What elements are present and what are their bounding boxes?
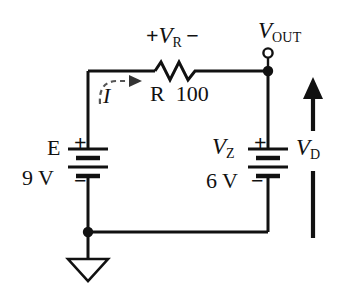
output-voltage-subscript: OUT [272,30,301,45]
zener-voltage-subscript: Z [226,146,235,161]
output-voltage-symbol: V [258,18,272,43]
current-label: I [103,85,110,107]
source-value-label: 9 V [22,167,54,189]
resistor-voltage-minus: − [186,23,199,48]
zener-designator-label: VZ [212,135,235,161]
source-designator-label: E [47,137,60,159]
output-terminal-circle-icon [263,48,272,57]
diode-voltage-subscript: D [310,147,320,162]
resistor-designator: R [150,81,165,106]
zener-value-label: 6 V [206,170,238,192]
resistor-voltage-symbol: V [159,23,173,48]
junction-dot-output [263,66,273,76]
zener-polarity-minus: − [251,170,264,192]
resistor-voltage-plus: + [146,23,159,48]
zener-voltage-symbol: V [212,134,226,159]
zener-polarity-plus: + [254,132,267,154]
resistor-voltage-subscript: R [173,35,183,50]
diode-voltage-symbol: V [296,135,310,160]
circuit-diagram: +VR − VOUT R 100 I E 9 V + − VZ 6 V + − … [0,0,341,297]
output-node-label: VOUT [258,19,301,45]
ground-icon [68,259,108,281]
resistor-voltage-label: +VR − [146,24,199,50]
resistor-value: 100 [176,81,209,106]
diode-voltage-label: VD [296,136,320,162]
source-polarity-minus: − [74,170,87,192]
resistor-symbol [155,62,200,80]
resistor-label: R 100 [150,83,209,105]
source-polarity-plus: + [74,132,87,154]
